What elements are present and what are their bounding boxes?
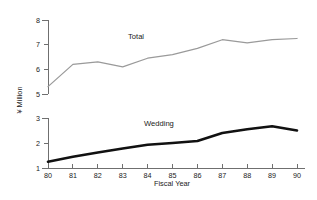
lower-y-tick-label: 2	[36, 139, 40, 148]
x-axis-tick-label: 84	[144, 171, 152, 180]
line-chart: 5678 123 8081828384858687888990 Total We…	[0, 0, 317, 200]
x-axis-title: Fiscal Year	[154, 179, 191, 188]
upper-y-tick-label: 8	[36, 16, 40, 25]
series-line-wedding	[48, 126, 297, 162]
x-axis-tick-label: 82	[94, 171, 102, 180]
x-axis-tick-label: 80	[44, 171, 52, 180]
x-axis-tick-label: 83	[119, 171, 127, 180]
upper-y-tick-label: 6	[36, 65, 40, 74]
upper-y-axis: 5678	[36, 16, 48, 99]
y-axis-title: ¥ Million	[15, 86, 24, 113]
chart-container: 5678 123 8081828384858687888990 Total We…	[0, 0, 317, 200]
x-axis-tick-label: 90	[293, 171, 301, 180]
upper-y-tick-label: 7	[36, 40, 40, 49]
x-axis: 8081828384858687888990	[44, 164, 305, 180]
series-label-wedding: Wedding	[144, 119, 174, 128]
lower-y-axis: 123	[36, 114, 48, 173]
lower-y-tick-label: 1	[36, 164, 40, 173]
series-label-total: Total	[128, 32, 144, 41]
x-axis-tick-label: 81	[69, 171, 77, 180]
x-axis-tick-label: 87	[218, 171, 226, 180]
x-axis-tick-label: 88	[243, 171, 251, 180]
lower-y-tick-label: 3	[36, 114, 40, 123]
x-axis-tick-label: 86	[193, 171, 201, 180]
x-axis-tick-label: 89	[268, 171, 276, 180]
upper-y-tick-label: 5	[36, 90, 40, 99]
series-line-total	[48, 39, 297, 87]
